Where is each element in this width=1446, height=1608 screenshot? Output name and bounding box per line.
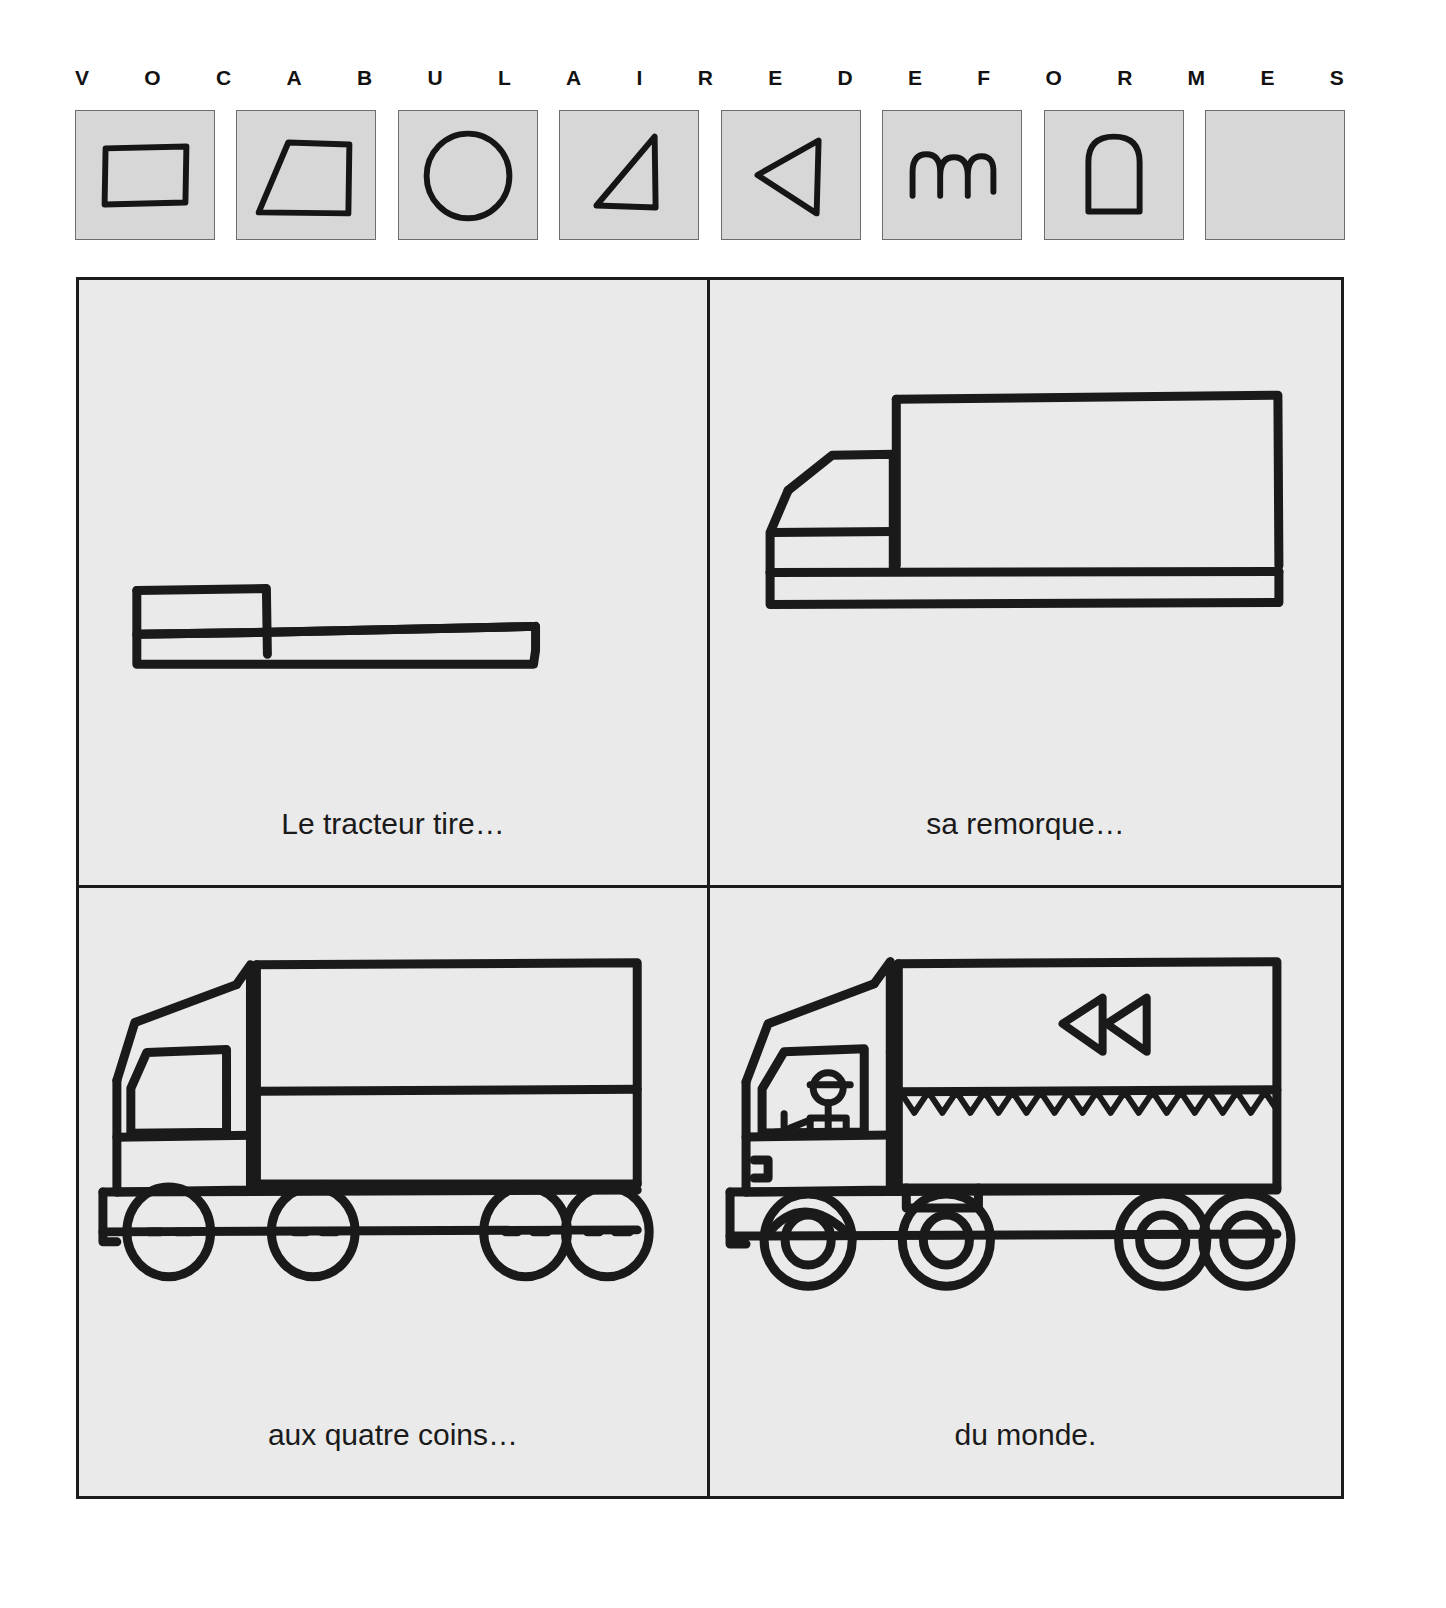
title-letter: O xyxy=(1045,66,1062,90)
panel-caption: sa remorque… xyxy=(710,807,1341,841)
title-letter: A xyxy=(286,66,302,90)
comic-panel-3: aux quatre coins… xyxy=(79,888,710,1496)
shape-swatch-empty xyxy=(1205,110,1345,240)
title-letter: A xyxy=(566,66,582,90)
finished-truck-with-driver-drawing xyxy=(710,888,1341,1496)
page-title: V O C A B U L A I R E D E F O R M E S xyxy=(75,62,1345,94)
title-letter: V xyxy=(75,66,90,90)
comic-panel-4: du monde. xyxy=(710,888,1341,1496)
title-letter: E xyxy=(908,66,923,90)
title-letter: D xyxy=(838,66,854,90)
title-letter: S xyxy=(1330,66,1345,90)
title-letter: R xyxy=(698,66,714,90)
title-letter: E xyxy=(768,66,783,90)
title-letter: E xyxy=(1260,66,1275,90)
vocabulary-header: V O C A B U L A I R E D E F O R M E S xyxy=(75,62,1345,242)
comic-panel-1: Le tracteur tire… xyxy=(79,280,710,888)
shape-swatch-trapezoid xyxy=(236,110,376,240)
shape-swatch-rectangle xyxy=(75,110,215,240)
title-letter: U xyxy=(427,66,443,90)
shape-vocabulary-row xyxy=(75,110,1345,240)
shape-swatch-arch-shape xyxy=(1044,110,1184,240)
comic-strip-frame: Le tracteur tire… sa remorque… xyxy=(76,277,1344,1499)
title-letter: L xyxy=(498,66,512,90)
title-letter: R xyxy=(1117,66,1133,90)
truck-with-wheels-drawing xyxy=(79,888,707,1496)
panel-caption: du monde. xyxy=(710,1418,1341,1452)
shape-swatch-left-triangle xyxy=(721,110,861,240)
panel-caption: Le tracteur tire… xyxy=(79,807,707,841)
title-letter: C xyxy=(216,66,232,90)
title-letter: I xyxy=(637,66,644,90)
title-letter: F xyxy=(977,66,991,90)
comic-panel-2: sa remorque… xyxy=(710,280,1341,888)
tractor-with-trailer-drawing xyxy=(710,280,1341,885)
title-letter: O xyxy=(144,66,161,90)
shape-swatch-right-triangle xyxy=(559,110,699,240)
title-letter: M xyxy=(1188,66,1207,90)
panel-caption: aux quatre coins… xyxy=(79,1418,707,1452)
driver-figure xyxy=(776,1073,850,1132)
title-letter: B xyxy=(357,66,373,90)
tractor-chassis-drawing xyxy=(79,280,707,885)
shape-swatch-arches xyxy=(882,110,1022,240)
shape-swatch-circle xyxy=(398,110,538,240)
truck-logo-icon xyxy=(1063,998,1147,1052)
